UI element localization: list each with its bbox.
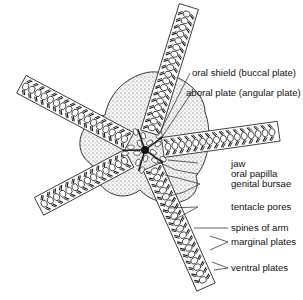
oral-papilla xyxy=(134,151,141,156)
label-aboral-plate: aboral plate (angular plate) xyxy=(186,87,301,98)
label-spines-of-arm: spines of arm xyxy=(231,222,289,233)
leader-ventral-plates-b xyxy=(214,268,228,270)
label-tentacle-pores: tentacle pores xyxy=(231,201,291,212)
leader-ventral-plates-a xyxy=(212,262,228,268)
leader-marginal-plates-a xyxy=(210,236,228,242)
label-genital-bursae: genital bursae xyxy=(231,178,291,189)
oral-papilla xyxy=(122,151,129,156)
leader-marginal-plates-b xyxy=(210,242,228,250)
oral-papilla xyxy=(127,145,134,150)
brittle-star-diagram: oral shield (buccal plate) aboral plate … xyxy=(0,0,303,300)
label-ventral-plates: ventral plates xyxy=(231,262,288,273)
label-oral-shield: oral shield (buccal plate) xyxy=(192,67,296,78)
label-marginal-plates: marginal plates xyxy=(231,236,296,247)
